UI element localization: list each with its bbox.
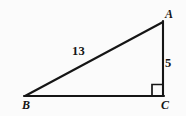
vertical-leg-length-label: 5 — [165, 57, 172, 70]
vertex-label-c: C — [161, 99, 169, 111]
hypotenuse-line — [25, 22, 163, 96]
vertex-label-a: A — [165, 8, 173, 20]
right-angle-marker-icon — [152, 85, 163, 96]
right-triangle-figure: A B C 13 5 — [0, 0, 186, 116]
hypotenuse-length-label: 13 — [72, 45, 85, 58]
vertex-label-b: B — [22, 99, 30, 111]
